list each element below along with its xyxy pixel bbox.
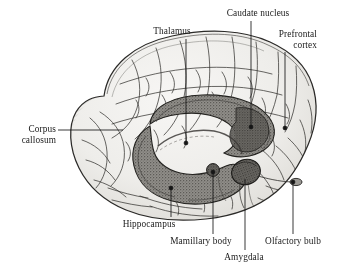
- label-mamillary-body: Mamillary body: [146, 236, 256, 247]
- label-amygdala: Amygdala: [205, 252, 283, 263]
- dot-thalamus: [184, 141, 188, 145]
- dot-mamillary-body: [211, 170, 215, 174]
- dot-prefrontal-cortex: [283, 126, 287, 130]
- figure-canvas: Thalamus Caudate nucleus Prefrontal cort…: [0, 0, 340, 280]
- label-prefrontal-cortex: Prefrontal cortex: [243, 29, 317, 50]
- label-caudate-nucleus: Caudate nucleus: [203, 8, 313, 19]
- label-hippocampus: Hippocampus: [104, 219, 194, 230]
- label-thalamus: Thalamus: [136, 26, 208, 37]
- dot-caudate-nucleus: [249, 125, 253, 129]
- dot-olfactory-bulb: [291, 180, 295, 184]
- dot-hippocampus: [169, 186, 173, 190]
- label-corpus-callosum: Corpus callosum: [2, 124, 56, 145]
- label-olfactory-bulb: Olfactory bulb: [249, 236, 337, 247]
